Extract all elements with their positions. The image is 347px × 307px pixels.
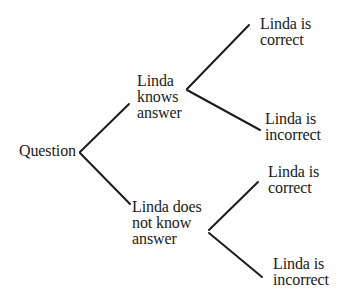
leaf-does-not-know-correct: Linda is correct bbox=[268, 164, 319, 196]
root-label: Question bbox=[19, 143, 76, 159]
leaf-line: correct bbox=[268, 180, 319, 196]
leaf-does-not-know-incorrect: Linda is incorrect bbox=[273, 256, 329, 288]
node-line: Linda does bbox=[132, 199, 202, 215]
node-line: knows bbox=[137, 89, 182, 105]
root-node-question: Question bbox=[19, 143, 76, 159]
edge-does-not-know-to-correct bbox=[209, 182, 258, 230]
edge-does-not-know-to-incorrect bbox=[209, 233, 262, 277]
node-line: answer bbox=[132, 231, 202, 247]
leaf-line: Linda is bbox=[260, 16, 311, 32]
edge-question-to-does-not-know bbox=[80, 153, 130, 204]
node-line: Linda bbox=[137, 73, 182, 89]
leaf-line: Linda is bbox=[273, 256, 329, 272]
edge-knows-to-incorrect bbox=[187, 90, 260, 130]
node-linda-knows-answer: Linda knows answer bbox=[137, 73, 182, 121]
leaf-line: incorrect bbox=[273, 272, 329, 288]
leaf-line: Linda is bbox=[268, 164, 319, 180]
node-line: not know bbox=[132, 215, 202, 231]
leaf-knows-incorrect: Linda is incorrect bbox=[265, 111, 321, 143]
leaf-line: Linda is bbox=[265, 111, 321, 127]
leaf-knows-correct: Linda is correct bbox=[260, 16, 311, 48]
leaf-line: correct bbox=[260, 32, 311, 48]
leaf-line: incorrect bbox=[265, 127, 321, 143]
edge-knows-to-correct bbox=[187, 25, 249, 89]
node-linda-does-not-know-answer: Linda does not know answer bbox=[132, 199, 202, 247]
edge-question-to-knows bbox=[80, 104, 129, 152]
node-line: answer bbox=[137, 105, 182, 121]
